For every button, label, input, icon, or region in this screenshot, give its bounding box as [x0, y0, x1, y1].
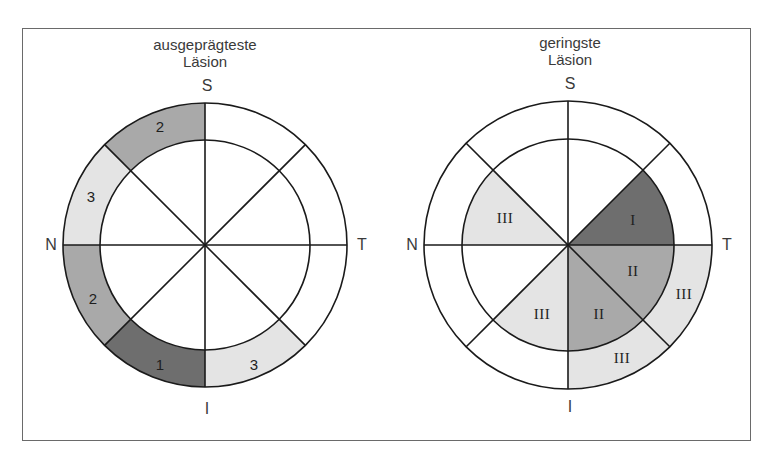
left-label-superior-nasal: 2 [156, 118, 164, 135]
right-direction-temporal: T [722, 236, 732, 253]
right-title-line2: Läsion [548, 51, 592, 68]
right-label-inner-nasal-upper: III [497, 210, 514, 226]
right-title-line1: geringste [539, 34, 601, 51]
right-label-inner-inferior-temporal: II [594, 306, 605, 322]
left-direction-superior: S [202, 77, 213, 94]
left-label-inferior-nasal: 1 [156, 356, 164, 373]
left-direction-inferior: I [205, 400, 209, 417]
left-label-inferior-temporal: 3 [250, 356, 258, 373]
fundus-sector-diagrams: ausgeprägteste Läsion 2 3 2 1 3 S T I N … [0, 0, 775, 454]
left-direction-nasal: N [45, 236, 57, 253]
left-label-nasal-upper: 3 [87, 188, 95, 205]
left-diagram: ausgeprägteste Läsion 2 3 2 1 3 S T I N [45, 36, 367, 417]
right-inner-segment-nasal-upper [462, 170, 568, 245]
right-label-inner-inferior-nasal: III [534, 306, 551, 322]
left-title-line2: Läsion [183, 53, 227, 70]
right-direction-inferior: I [568, 398, 572, 415]
right-inner-segment-superior-temporal [568, 170, 674, 245]
right-direction-nasal: N [406, 236, 418, 253]
right-inner-segment-inferior-nasal [493, 245, 568, 351]
left-label-nasal-lower: 2 [89, 290, 97, 307]
left-direction-temporal: T [357, 236, 367, 253]
right-label-inner-superior-temporal: I [630, 212, 636, 228]
right-diagram: geringste Läsion I II II III III III III… [406, 34, 732, 415]
right-label-ring-inferior-temporal: III [614, 350, 631, 366]
right-label-ring-temporal-lower: III [676, 286, 693, 302]
left-title-line1: ausgeprägteste [153, 36, 256, 53]
right-direction-superior: S [565, 75, 576, 92]
right-label-inner-temporal-lower: II [628, 263, 639, 279]
